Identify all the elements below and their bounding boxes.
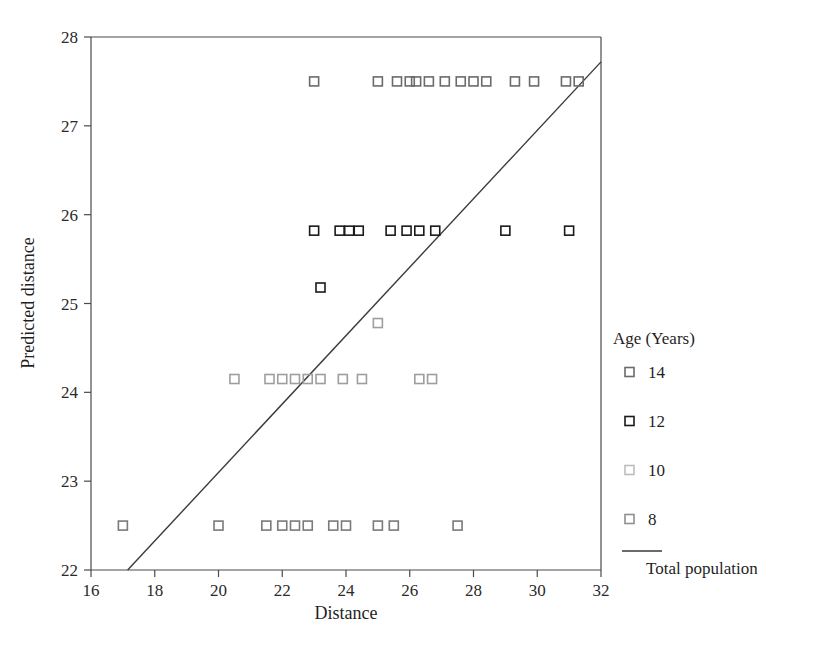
data-point-marker — [335, 226, 344, 235]
data-point-marker — [530, 77, 539, 86]
data-point-marker — [453, 521, 462, 530]
y-tick-label: 26 — [61, 206, 78, 225]
data-point-marker — [373, 77, 382, 86]
data-point-marker — [214, 521, 223, 530]
legend-label-12: 12 — [648, 412, 665, 431]
legend: Age (Years) 1412108 Total population — [613, 329, 758, 578]
data-point-marker — [278, 375, 287, 384]
data-point-marker — [329, 521, 338, 530]
data-point-marker — [565, 226, 574, 235]
legend-marker-12 — [625, 417, 634, 426]
data-point-marker — [265, 375, 274, 384]
data-point-marker — [386, 226, 395, 235]
x-axis-title: Distance — [315, 603, 378, 623]
data-point-marker — [373, 319, 382, 328]
data-point-marker — [415, 375, 424, 384]
data-point-marker — [316, 283, 325, 292]
chart-canvas: 161820222426283032 22232425262728 Distan… — [0, 0, 820, 653]
data-point-marker — [278, 521, 287, 530]
data-point-marker — [262, 521, 271, 530]
data-point-marker — [316, 375, 325, 384]
data-point-marker — [402, 226, 411, 235]
data-point-marker — [424, 77, 433, 86]
data-point-markers — [118, 77, 583, 530]
data-point-marker — [342, 521, 351, 530]
data-point-marker — [412, 77, 421, 86]
y-tick-label: 24 — [61, 383, 79, 402]
y-axis-title: Predicted distance — [18, 237, 38, 368]
y-tick-label: 27 — [61, 117, 79, 136]
data-point-marker — [440, 77, 449, 86]
data-point-marker — [373, 521, 382, 530]
total-population-trend-line — [128, 62, 601, 570]
x-tick-label: 30 — [529, 581, 546, 600]
x-tick-label: 20 — [210, 581, 227, 600]
data-point-marker — [393, 77, 402, 86]
data-point-marker — [482, 77, 491, 86]
data-point-marker — [456, 77, 465, 86]
data-point-marker — [310, 77, 319, 86]
data-point-marker — [415, 226, 424, 235]
data-point-marker — [118, 521, 127, 530]
legend-line-label: Total population — [646, 559, 758, 578]
data-point-marker — [345, 226, 354, 235]
x-tick-label: 26 — [401, 581, 418, 600]
y-tick-label: 28 — [61, 28, 78, 47]
x-tick-label: 18 — [146, 581, 163, 600]
legend-items: 1412108 — [625, 363, 666, 529]
data-point-marker — [469, 77, 478, 86]
y-tick-label: 25 — [61, 295, 78, 314]
data-point-marker — [428, 375, 437, 384]
data-point-marker — [405, 77, 414, 86]
data-point-marker — [303, 521, 312, 530]
legend-marker-8 — [625, 515, 634, 524]
data-point-marker — [510, 77, 519, 86]
x-tick-label: 32 — [593, 581, 610, 600]
y-tick-label: 23 — [61, 472, 78, 491]
legend-marker-10 — [625, 466, 634, 475]
y-axis-tick-labels: 22232425262728 — [61, 28, 79, 580]
data-point-marker — [357, 375, 366, 384]
x-tick-label: 16 — [83, 581, 100, 600]
data-point-marker — [310, 226, 319, 235]
data-point-marker — [291, 375, 300, 384]
x-axis-tick-labels: 161820222426283032 — [83, 581, 610, 600]
scatter-plot-figure: 161820222426283032 22232425262728 Distan… — [0, 0, 820, 653]
x-axis-ticks — [91, 570, 601, 577]
legend-label-8: 8 — [648, 510, 657, 529]
data-point-marker — [230, 375, 239, 384]
x-tick-label: 28 — [465, 581, 482, 600]
data-point-marker — [501, 226, 510, 235]
data-point-marker — [291, 521, 300, 530]
data-point-marker — [338, 375, 347, 384]
legend-title: Age (Years) — [613, 329, 695, 348]
x-tick-label: 22 — [274, 581, 291, 600]
y-tick-label: 22 — [61, 561, 78, 580]
data-point-marker — [561, 77, 570, 86]
legend-marker-14 — [625, 368, 634, 377]
data-point-marker — [354, 226, 363, 235]
data-point-marker — [389, 521, 398, 530]
y-axis-ticks — [84, 37, 91, 570]
x-tick-label: 24 — [338, 581, 356, 600]
legend-label-10: 10 — [648, 461, 665, 480]
data-point-marker — [431, 226, 440, 235]
legend-label-14: 14 — [648, 363, 666, 382]
plot-frame — [91, 37, 601, 570]
